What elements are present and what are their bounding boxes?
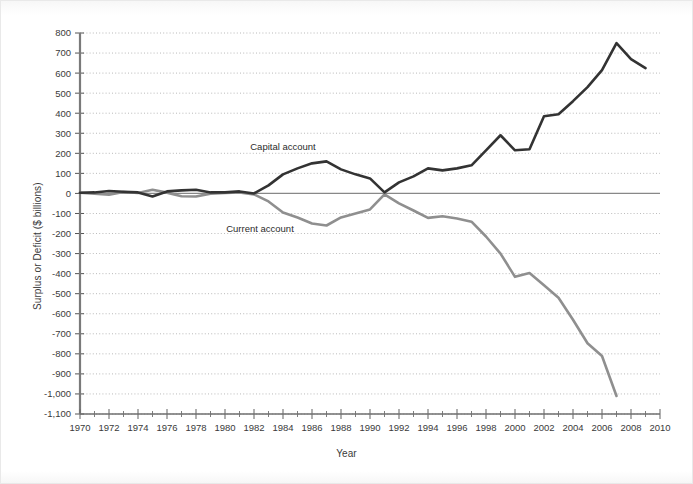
y-tick-label: -1,100 xyxy=(44,408,71,419)
y-tick-label: -400 xyxy=(52,268,71,279)
x-tick-label: 2008 xyxy=(620,422,641,433)
y-tick-label: -700 xyxy=(52,328,71,339)
y-tick-label: -800 xyxy=(52,348,71,359)
x-tick-label: 1982 xyxy=(243,422,264,433)
y-tick-label: -300 xyxy=(52,248,71,259)
series-label-current-account: Current account xyxy=(226,223,294,234)
x-tick-label: 1978 xyxy=(185,422,206,433)
y-tick-label: 700 xyxy=(55,47,71,58)
x-tick-label: 1970 xyxy=(69,422,90,433)
chart-figure: 8007006005004003002001000-100-200-300-40… xyxy=(0,0,693,484)
x-tick-label: 2002 xyxy=(533,422,554,433)
x-axis-title: Year xyxy=(0,448,693,459)
y-tick-label: 300 xyxy=(55,128,71,139)
x-tick-label: 1972 xyxy=(98,422,119,433)
y-tick-label: -600 xyxy=(52,308,71,319)
y-tick-label: -900 xyxy=(52,368,71,379)
x-tick-label: 1980 xyxy=(214,422,235,433)
x-tick-label: 1988 xyxy=(330,422,351,433)
x-tick-label: 1990 xyxy=(359,422,380,433)
x-tick-label: 2006 xyxy=(591,422,612,433)
x-tick-label: 1992 xyxy=(388,422,409,433)
y-tick-label: 800 xyxy=(55,27,71,38)
y-tick-label: -200 xyxy=(52,228,71,239)
y-tick-label: -500 xyxy=(52,288,71,299)
line-chart: 8007006005004003002001000-100-200-300-40… xyxy=(0,0,693,484)
series-label-capital-account: Capital account xyxy=(250,141,316,152)
y-tick-label: 500 xyxy=(55,88,71,99)
x-tick-label: 1986 xyxy=(301,422,322,433)
y-tick-label: -1,000 xyxy=(44,388,71,399)
series-line-current-account xyxy=(80,190,617,396)
y-tick-label: 200 xyxy=(55,148,71,159)
x-tick-label: 1996 xyxy=(446,422,467,433)
y-tick-label: 0 xyxy=(66,188,71,199)
x-tick-label: 1976 xyxy=(156,422,177,433)
x-tick-label: 1998 xyxy=(475,422,496,433)
y-tick-label: 400 xyxy=(55,108,71,119)
x-tick-label: 2000 xyxy=(504,422,525,433)
y-tick-label: 100 xyxy=(55,168,71,179)
x-tick-label: 2010 xyxy=(649,422,670,433)
x-tick-label: 1974 xyxy=(127,422,148,433)
y-tick-label: -100 xyxy=(52,208,71,219)
x-tick-label: 1984 xyxy=(272,422,293,433)
y-axis-title: Surplus or Deficit ($ billions) xyxy=(32,182,43,310)
x-tick-label: 2004 xyxy=(562,422,583,433)
y-tick-label: 600 xyxy=(55,68,71,79)
x-tick-label: 1994 xyxy=(417,422,438,433)
